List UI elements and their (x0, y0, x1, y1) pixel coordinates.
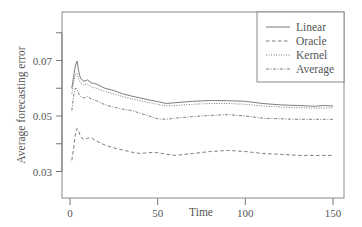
y-tick-label: 0.07 (33, 55, 53, 67)
y-axis-title: Average forecasting error (15, 46, 28, 163)
x-tick-label: 50 (152, 207, 164, 219)
line-chart: 0.030.050.07 050100150 Time Average fore… (0, 0, 362, 227)
y-axis: 0.030.050.07 (33, 33, 62, 178)
y-tick-label: 0.03 (33, 166, 53, 178)
legend-label-kernel: Kernel (296, 49, 327, 61)
legend-label-average: Average (296, 63, 334, 76)
legend: LinearOracleKernelAverage (257, 12, 344, 82)
x-tick-label: 0 (67, 207, 73, 219)
y-tick-label: 0.05 (33, 110, 53, 122)
x-axis-title: Time (189, 206, 213, 218)
x-tick-label: 150 (325, 207, 342, 219)
x-tick-label: 100 (237, 207, 254, 219)
legend-label-oracle: Oracle (296, 35, 327, 47)
series-oracle (72, 129, 333, 161)
legend-label-linear: Linear (296, 21, 326, 33)
